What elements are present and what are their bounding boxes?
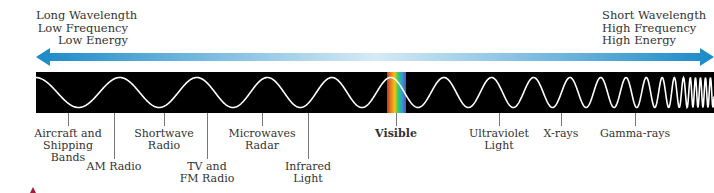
tick-line-am — [114, 113, 115, 159]
high-energy-text: High Energy — [602, 34, 712, 47]
label-line: Visible — [375, 128, 417, 140]
spectrum-band — [36, 72, 714, 113]
label-infrared: InfraredLight — [285, 161, 331, 185]
label-aircraft: Aircraft andShippingBands — [34, 128, 101, 164]
low-energy-label: Long Wavelength Low Frequency Low Energy — [36, 9, 128, 47]
label-line: X-rays — [544, 128, 579, 140]
red-triangle-mark — [30, 187, 36, 193]
label-line: Gamma-rays — [600, 128, 670, 140]
tick-line-microwaves — [262, 113, 263, 126]
label-am: AM Radio — [87, 161, 142, 173]
label-gamma: Gamma-rays — [600, 128, 670, 140]
label-visible: Visible — [375, 128, 417, 140]
tick-line-infrared — [308, 113, 309, 159]
label-line: Radio — [134, 140, 194, 152]
label-line: AM Radio — [87, 161, 142, 173]
high-energy-label: Short Wavelength High Frequency High Ene… — [602, 9, 712, 47]
label-line: Light — [469, 140, 529, 152]
label-microwaves: MicrowavesRadar — [228, 128, 295, 152]
short-wavelength-text: Short Wavelength — [602, 9, 712, 22]
wave-graphic — [36, 72, 714, 113]
label-tvfm: TV andFM Radio — [180, 161, 235, 185]
label-line: Light — [285, 173, 331, 185]
tick-line-ultraviolet — [499, 113, 500, 126]
label-line: FM Radio — [180, 173, 235, 185]
long-wavelength-text: Long Wavelength — [36, 9, 128, 22]
low-energy-text: Low Energy — [36, 34, 128, 47]
tick-line-shortwave — [164, 113, 165, 126]
tick-line-tvfm — [207, 113, 208, 159]
double-arrow-icon — [36, 48, 714, 66]
tick-line-visible — [396, 113, 397, 126]
tick-line-gamma — [635, 113, 636, 126]
tick-line-xrays — [561, 113, 562, 126]
label-xrays: X-rays — [544, 128, 579, 140]
tick-line-aircraft — [68, 113, 69, 126]
label-ultraviolet: UltravioletLight — [469, 128, 529, 152]
label-shortwave: ShortwaveRadio — [134, 128, 194, 152]
label-line: Radar — [228, 140, 295, 152]
